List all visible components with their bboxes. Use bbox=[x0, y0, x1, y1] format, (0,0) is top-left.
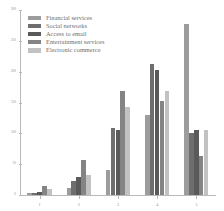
y-axis-tick bbox=[19, 41, 22, 42]
legend-item[interactable]: Social networks bbox=[28, 23, 104, 29]
legend-swatch-icon bbox=[28, 24, 41, 28]
x-axis-label: 5 bbox=[195, 203, 197, 207]
y-axis-tick bbox=[19, 103, 22, 104]
bar bbox=[204, 130, 209, 195]
legend-swatch-icon bbox=[28, 40, 41, 44]
bar bbox=[86, 175, 91, 195]
x-axis-label: 1 bbox=[39, 203, 41, 207]
y-axis-tick bbox=[19, 133, 22, 134]
bar-chart: 050100150200250300 12345 Financial servi… bbox=[0, 0, 224, 211]
y-axis-label: 100 bbox=[11, 132, 16, 135]
y-axis-label: 250 bbox=[11, 39, 16, 42]
legend-item-label: Entertainment services bbox=[46, 39, 104, 45]
y-axis-tick bbox=[19, 195, 22, 196]
x-axis-label: 3 bbox=[117, 203, 119, 207]
legend-item-label: Financial services bbox=[46, 15, 92, 21]
bar bbox=[47, 189, 52, 195]
x-axis-label: 4 bbox=[156, 203, 158, 207]
y-axis-label: 300 bbox=[11, 8, 16, 11]
legend-item[interactable]: Electronic commerce bbox=[28, 47, 104, 53]
legend-item[interactable]: Access to email bbox=[28, 31, 104, 37]
y-axis-tick bbox=[19, 72, 22, 73]
x-axis-tick bbox=[79, 196, 80, 199]
y-axis-label: 150 bbox=[11, 101, 16, 104]
y-axis-label: 200 bbox=[11, 70, 16, 73]
legend-item-label: Social networks bbox=[46, 23, 87, 29]
legend-swatch-icon bbox=[28, 48, 41, 52]
y-axis-tick bbox=[19, 10, 22, 11]
x-axis-label: 2 bbox=[78, 203, 80, 207]
legend-item-label: Access to email bbox=[46, 31, 86, 37]
x-axis-tick bbox=[118, 196, 119, 199]
legend-swatch-icon bbox=[28, 32, 41, 36]
y-axis-label: 0 bbox=[14, 193, 16, 196]
x-axis-tick bbox=[196, 196, 197, 199]
y-axis-label: 50 bbox=[13, 162, 16, 165]
legend-item[interactable]: Financial services bbox=[28, 15, 104, 21]
bar bbox=[165, 91, 170, 195]
chart-legend: Financial servicesSocial networksAccess … bbox=[28, 15, 104, 53]
x-axis-tick bbox=[40, 196, 41, 199]
legend-item[interactable]: Entertainment services bbox=[28, 39, 104, 45]
bar bbox=[125, 107, 130, 195]
legend-swatch-icon bbox=[28, 16, 41, 20]
x-axis-tick bbox=[157, 196, 158, 199]
legend-item-label: Electronic commerce bbox=[46, 47, 100, 53]
y-axis-tick bbox=[19, 164, 22, 165]
